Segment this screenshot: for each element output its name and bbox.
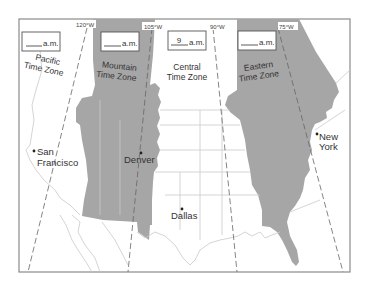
mountain-time-suffix: a.m. xyxy=(122,39,138,48)
svg-text:Denver: Denver xyxy=(124,154,155,165)
meridian-label-120w: 120°W xyxy=(76,22,94,28)
svg-text:Dallas: Dallas xyxy=(171,210,198,221)
svg-text:San: San xyxy=(37,146,54,157)
city-dallas: Dallas xyxy=(171,208,198,221)
zone-label-mountain: Mountain Time Zone xyxy=(96,59,138,83)
meridian-label-90w: 90°W xyxy=(210,24,225,30)
time-box-pacific[interactable]: a.m. xyxy=(22,32,60,51)
pacific-time-suffix: a.m. xyxy=(43,39,59,48)
central-time-value[interactable]: 9 xyxy=(177,36,182,45)
time-zone-map: 120°W 105°W 90°W 75°W a.m. a.m. 9 a.m. a… xyxy=(0,0,365,285)
city-denver: Denver xyxy=(124,152,155,165)
meridian-label-105w: 105°W xyxy=(144,24,162,30)
svg-text:York: York xyxy=(319,141,338,152)
city-new-york: New York xyxy=(316,131,339,152)
eastern-time-suffix: a.m. xyxy=(259,38,275,47)
time-box-mountain[interactable]: a.m. xyxy=(101,32,139,51)
svg-text:Francisco: Francisco xyxy=(37,157,78,168)
svg-text:Time Zone: Time Zone xyxy=(167,72,208,82)
central-time-suffix: a.m. xyxy=(189,38,205,47)
svg-text:Central: Central xyxy=(173,62,201,72)
meridian-label-75w: 75°W xyxy=(279,24,294,30)
time-box-eastern[interactable]: a.m. xyxy=(238,31,276,50)
time-box-central[interactable]: 9 a.m. xyxy=(168,31,206,50)
